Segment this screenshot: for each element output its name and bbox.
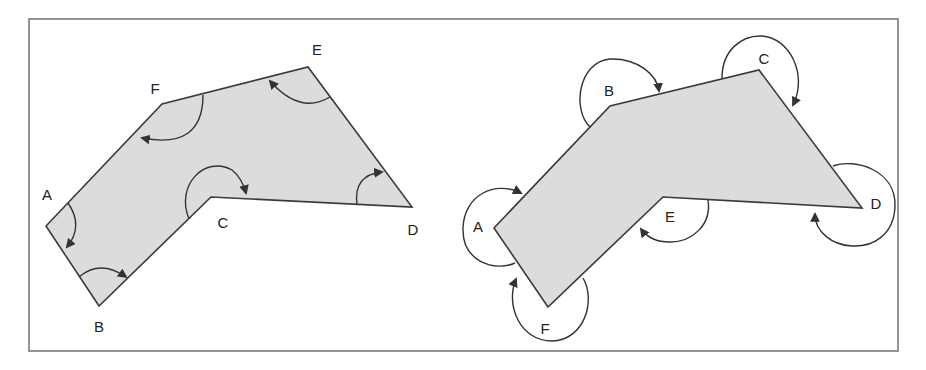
vertex-label-f-left: F <box>150 80 159 97</box>
polygon-angle-diagram: A B C D E F A B C D E F <box>0 0 926 370</box>
vertex-label-c-left: C <box>218 214 229 231</box>
vertex-label-c-right: C <box>759 50 770 67</box>
right-polygon <box>494 70 862 307</box>
vertex-label-d-right: D <box>871 195 882 212</box>
left-polygon <box>46 67 412 306</box>
vertex-label-b-right: B <box>604 82 614 99</box>
vertex-label-b-left: B <box>94 318 104 335</box>
vertex-label-f-right: F <box>540 320 549 337</box>
vertex-label-a-right: A <box>473 218 483 235</box>
vertex-label-e-right: E <box>665 208 675 225</box>
vertex-label-e-left: E <box>312 41 322 58</box>
right-panel: A B C D E F <box>463 36 895 341</box>
vertex-label-a-left: A <box>42 186 52 203</box>
left-panel: A B C D E F <box>42 41 419 335</box>
vertex-label-d-left: D <box>408 221 419 238</box>
